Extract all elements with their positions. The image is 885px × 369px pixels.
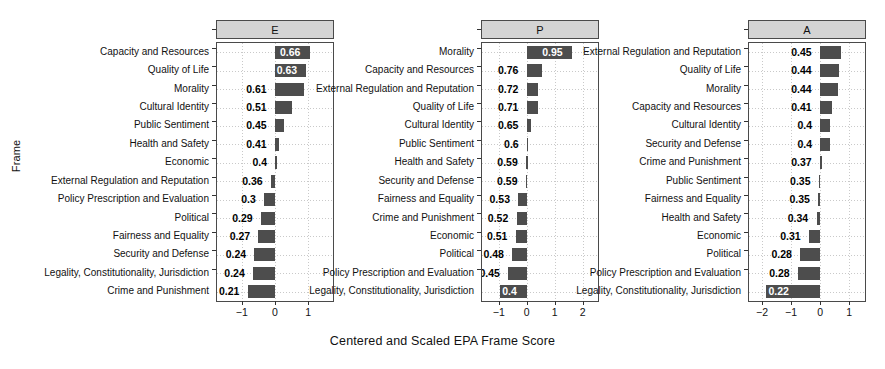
category-tick-mark	[212, 158, 216, 159]
category-label: Political	[175, 211, 209, 224]
bar	[527, 138, 529, 151]
category-label: Morality	[174, 82, 209, 95]
category-tick-mark	[744, 66, 748, 67]
bar-value-label: 0.71	[498, 101, 518, 114]
panel-strip-label: E	[216, 20, 334, 39]
category-tick-mark	[477, 103, 481, 104]
gridline-vertical	[308, 43, 309, 301]
category-tick-mark	[477, 195, 481, 196]
category-label: Legality, Constitutionality, Jurisdictio…	[309, 284, 474, 297]
category-label: Capacity and Resources	[632, 100, 741, 113]
bar-value-label: 0.24	[224, 267, 244, 280]
category-tick-mark	[744, 195, 748, 196]
x-tick-label: −2	[747, 306, 777, 318]
bar-value-label: 0.72	[498, 83, 518, 96]
bar	[820, 101, 832, 114]
category-label: Economic	[430, 229, 474, 242]
bar	[818, 193, 820, 206]
category-tick-mark	[212, 66, 216, 67]
category-label: Security and Defense	[113, 247, 209, 260]
x-tick-mark	[583, 301, 584, 305]
category-tick-mark	[212, 48, 216, 49]
bar-value-label: 0.35	[790, 175, 810, 188]
bar	[516, 230, 527, 243]
bar-value-label: 0.27	[230, 230, 250, 243]
category-label: Cultural Identity	[672, 118, 741, 131]
bar-value-label: 0.3	[241, 193, 256, 206]
facet-panel-a: A0.450.440.440.410.40.40.370.350.350.340…	[748, 20, 866, 320]
bar-value-label: 0.65	[498, 119, 518, 132]
bar	[253, 267, 275, 280]
bar	[527, 101, 538, 114]
category-label: Political	[707, 247, 741, 260]
category-tick-mark	[212, 29, 216, 30]
x-tick-mark	[308, 301, 309, 305]
category-tick-mark	[477, 29, 481, 30]
category-tick-mark	[477, 48, 481, 49]
bar	[275, 156, 277, 169]
bar	[275, 138, 279, 151]
bar-value-label: 0.53	[490, 193, 510, 206]
bar-value-label: 0.63	[277, 64, 297, 77]
bar-value-label: 0.52	[488, 212, 508, 225]
category-tick-mark	[212, 140, 216, 141]
bar-value-label: 0.6	[504, 138, 519, 151]
bar	[258, 230, 275, 243]
bar	[248, 285, 275, 298]
x-tick-label: 1	[540, 306, 570, 318]
bar-value-label: 0.76	[498, 64, 518, 77]
category-tick-mark	[744, 213, 748, 214]
bar-value-label: 0.4	[797, 119, 812, 132]
category-tick-mark	[477, 158, 481, 159]
bar	[817, 212, 820, 225]
bar	[264, 193, 275, 206]
gridline-vertical	[555, 43, 556, 301]
category-label: Capacity and Resources	[100, 45, 209, 58]
category-label: Political	[440, 247, 474, 260]
category-label: Public Sentiment	[666, 174, 741, 187]
bar	[820, 156, 822, 169]
x-tick-mark	[791, 301, 792, 305]
category-label: Security and Defense	[645, 137, 741, 150]
bar	[820, 46, 841, 59]
bar	[820, 119, 830, 132]
bar-value-label: 0.45	[791, 46, 811, 59]
bar	[254, 248, 275, 261]
bar-value-label: 0.66	[280, 46, 300, 59]
bar-value-label: 0.4	[502, 285, 517, 298]
bar-value-label: 0.41	[791, 101, 811, 114]
bar	[517, 212, 527, 225]
bar-value-label: 0.61	[246, 83, 266, 96]
plot-area: 0.450.440.440.410.40.40.370.350.350.340.…	[748, 42, 866, 302]
category-label: Health and Safety	[130, 137, 210, 150]
x-tick-label: 1	[293, 306, 323, 318]
category-tick-mark	[744, 48, 748, 49]
category-tick-mark	[744, 140, 748, 141]
x-axis-title: Centered and Scaled EPA Frame Score	[0, 334, 885, 348]
bar	[809, 230, 820, 243]
bar	[820, 64, 839, 77]
bar-value-label: 0.24	[226, 248, 246, 261]
x-tick-mark	[762, 301, 763, 305]
bar-value-label: 0.44	[791, 83, 811, 96]
bar-value-label: 0.36	[242, 175, 262, 188]
bar-value-label: 0.48	[483, 248, 503, 261]
bar	[820, 138, 830, 151]
gridline-vertical	[849, 43, 850, 301]
category-label: Cultural Identity	[405, 118, 474, 131]
category-tick-mark	[744, 85, 748, 86]
bar	[275, 83, 304, 96]
bar-value-label: 0.95	[542, 46, 562, 59]
x-tick-mark	[820, 301, 821, 305]
category-tick-mark	[744, 103, 748, 104]
facet-panel-e: E0.660.630.610.510.450.410.40.360.30.290…	[216, 20, 334, 320]
category-tick-mark	[744, 121, 748, 122]
bar-value-label: 0.59	[497, 175, 517, 188]
x-tick-mark	[499, 301, 500, 305]
bar	[526, 175, 528, 188]
bar-value-label: 0.51	[487, 230, 507, 243]
category-tick-mark	[477, 177, 481, 178]
gridline-vertical	[583, 43, 584, 301]
bar-value-label: 0.59	[497, 156, 517, 169]
gridline-vertical	[242, 43, 243, 301]
